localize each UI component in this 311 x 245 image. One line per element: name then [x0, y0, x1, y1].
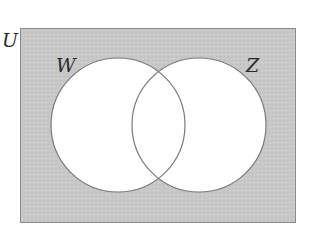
set-w-label: W	[56, 54, 77, 76]
venn-diagram: U W Z	[0, 0, 311, 245]
set-z-label: Z	[245, 54, 260, 76]
universe-label: U	[2, 29, 19, 51]
set-z-fill	[132, 58, 266, 192]
